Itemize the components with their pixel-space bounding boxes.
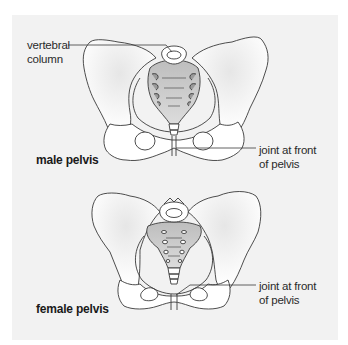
male-left-ilium xyxy=(83,40,156,137)
female-sacrum xyxy=(147,222,202,268)
label-line: of pelvis xyxy=(259,157,316,171)
male-sacrum xyxy=(148,60,200,124)
female-pelvis-title: female pelvis xyxy=(36,302,109,316)
label-male-joint-front: joint at front of pelvis xyxy=(259,143,316,171)
label-line: vertebral xyxy=(27,38,70,52)
label-vertebral-column: vertebral column xyxy=(27,38,70,66)
male-pelvis-title: male pelvis xyxy=(36,153,99,167)
male-left-obturator xyxy=(135,132,155,150)
female-coccyx xyxy=(168,268,180,284)
male-coccyx xyxy=(169,124,179,135)
female-pelvis-drawing xyxy=(92,192,261,311)
male-pelvis-drawing xyxy=(83,37,268,161)
male-right-obturator xyxy=(193,132,213,150)
female-right-ilium xyxy=(188,192,261,290)
label-line: joint at front xyxy=(259,279,316,293)
label-line: of pelvis xyxy=(259,293,316,307)
male-right-ilium xyxy=(192,37,268,136)
label-female-joint-front: joint at front of pelvis xyxy=(259,279,316,307)
label-line: joint at front xyxy=(259,143,316,157)
label-line: column xyxy=(27,52,70,66)
